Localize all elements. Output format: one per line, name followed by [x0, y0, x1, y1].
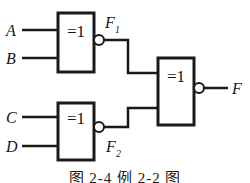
gate-2-inversion-bubble [94, 122, 104, 132]
label-signal-f2: F [105, 138, 116, 155]
label-signal-f1-subscript: 1 [115, 24, 120, 35]
gate-1-inversion-bubble [94, 35, 104, 45]
label-input-a: A [5, 22, 16, 39]
figure-caption: 图 2-4 例 2-2 图 [0, 170, 250, 183]
wire-f1-to-gate-3 [104, 40, 158, 73]
gate-3-symbol: =1 [167, 67, 185, 86]
gate-3-inversion-bubble [194, 83, 204, 93]
label-input-d: D [5, 138, 18, 155]
gate-1-symbol: =1 [67, 22, 85, 41]
label-input-c: C [6, 109, 17, 126]
figure-canvas: =1 =1 =1 A B C D F 1 F 2 F 图 2-4 [0, 0, 250, 183]
circuit-schematic: =1 =1 =1 A B C D F 1 F 2 F [0, 0, 250, 183]
label-signal-f2-subscript: 2 [116, 148, 121, 159]
label-signal-f1: F [104, 14, 115, 31]
label-input-b: B [6, 50, 16, 67]
wire-f2-to-gate-3 [104, 108, 158, 127]
gate-2-symbol: =1 [67, 109, 85, 128]
label-output-f: F [231, 80, 242, 97]
